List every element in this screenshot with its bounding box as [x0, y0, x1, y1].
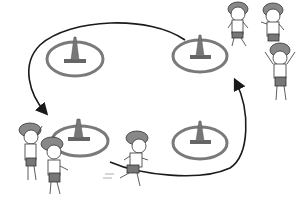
child-waiting-left-2	[41, 137, 68, 194]
child-waiting-top-1	[228, 2, 248, 46]
child-waiting-top-3	[265, 43, 295, 100]
cone-top-right	[173, 35, 227, 72]
relay-course-illustration	[0, 0, 308, 214]
cone-top-left	[47, 37, 103, 76]
child-waiting-top-2	[261, 3, 284, 41]
child-waiting-left-1	[19, 123, 42, 180]
cone-bottom-right	[173, 121, 227, 159]
child-runner	[103, 131, 148, 186]
